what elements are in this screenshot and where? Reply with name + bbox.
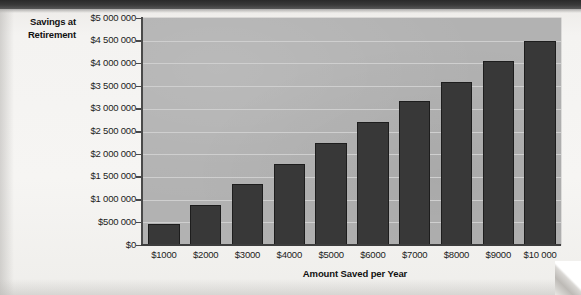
x-axis-tick-label: $5000 <box>310 249 352 260</box>
bar <box>441 82 473 245</box>
y-axis-tick <box>136 108 143 110</box>
x-axis-tick-label: $6000 <box>352 249 394 260</box>
y-axis-tick <box>136 222 143 224</box>
y-axis-tick-label: $1 000 000 <box>44 193 136 204</box>
bar <box>399 101 431 245</box>
x-axis-title: Amount Saved per Year <box>146 268 564 279</box>
y-axis-tick-label: $1 500 000 <box>44 170 136 181</box>
y-axis-tick <box>136 131 143 133</box>
y-axis-tick <box>136 86 143 88</box>
gridline <box>143 41 561 42</box>
x-axis-tick-label: $7000 <box>394 249 436 260</box>
y-axis-tick <box>136 40 143 42</box>
bar <box>357 122 389 245</box>
y-axis-tick-label: $4 500 000 <box>44 34 136 45</box>
bar <box>315 143 347 245</box>
x-axis-tick-label: $2000 <box>185 249 227 260</box>
y-axis-tick-label: $2 000 000 <box>44 148 136 159</box>
y-axis-tick <box>136 176 143 178</box>
x-axis-tick-label: $10 000 <box>519 249 561 260</box>
bar <box>148 224 180 245</box>
y-axis-tick <box>136 154 143 156</box>
y-axis-tick-label: $2 500 000 <box>44 125 136 136</box>
y-axis-tick-label: $0 <box>44 239 136 250</box>
x-axis-tick-label: $4000 <box>268 249 310 260</box>
bar <box>232 184 264 245</box>
x-axis-tick-label: $9000 <box>477 249 519 260</box>
bar <box>190 205 222 245</box>
bar <box>274 164 306 245</box>
bar <box>483 61 515 245</box>
x-axis-tick-label: $1000 <box>143 249 185 260</box>
page-corner-fold <box>555 261 581 295</box>
bar-chart: Savings at Retirement $0$500 000$1 000 0… <box>0 0 581 295</box>
y-axis-tick-label: $5 000 000 <box>44 12 136 23</box>
y-axis-tick-label: $4 000 000 <box>44 57 136 68</box>
x-axis-line <box>141 244 561 246</box>
x-axis-tick-label: $8000 <box>436 249 478 260</box>
y-axis-tick-label: $3 000 000 <box>44 102 136 113</box>
y-axis-tick-label: $500 000 <box>44 216 136 227</box>
y-axis-tick-labels: $0$500 000$1 000 000$1 500 000$2 000 000… <box>38 0 136 295</box>
y-axis-tick <box>136 199 143 201</box>
x-axis-tick-label: $3000 <box>227 249 269 260</box>
y-axis-tick <box>136 63 143 65</box>
bar <box>524 41 556 245</box>
y-axis-tick-label: $3 500 000 <box>44 80 136 91</box>
page-background: Savings at Retirement $0$500 000$1 000 0… <box>0 0 581 295</box>
y-axis-tick <box>136 18 143 20</box>
plot-area <box>143 18 561 245</box>
